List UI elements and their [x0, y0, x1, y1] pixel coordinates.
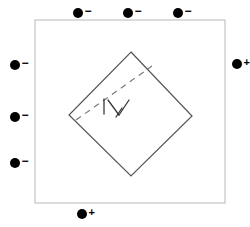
diagram-background — [0, 0, 250, 227]
physics-diagram-svg: −−−−−−++ — [0, 0, 250, 227]
plus-sign-icon: + — [89, 206, 95, 218]
minus-sign-icon: − — [22, 108, 29, 122]
figure-root: −−−−−−++ — [0, 0, 250, 227]
positive-charge-dot-icon — [77, 209, 87, 219]
negative-charge-dot-icon — [123, 8, 133, 18]
negative-charge-dot-icon — [10, 60, 20, 70]
minus-sign-icon: − — [22, 154, 29, 168]
minus-sign-icon: − — [185, 4, 192, 18]
minus-sign-icon: − — [135, 4, 142, 18]
minus-sign-icon: − — [85, 4, 92, 18]
negative-charge-dot-icon — [173, 8, 183, 18]
positive-charge-dot-icon — [232, 59, 242, 69]
negative-charge-dot-icon — [73, 8, 83, 18]
minus-sign-icon: − — [22, 56, 29, 70]
negative-charge-dot-icon — [10, 112, 20, 122]
plus-sign-icon: + — [244, 56, 250, 68]
negative-charge-dot-icon — [10, 158, 20, 168]
